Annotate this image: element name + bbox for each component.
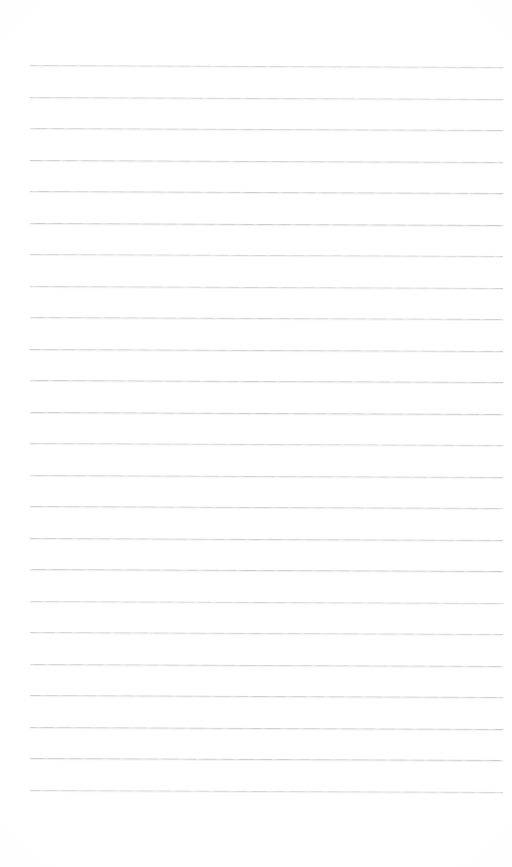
rule-line (30, 412, 503, 415)
rule-line (30, 475, 503, 478)
rule-line-texture (30, 411, 503, 416)
rule-line-texture (30, 64, 503, 69)
rule-line (30, 160, 503, 163)
rule-line-texture (30, 127, 503, 132)
rule-line-texture (30, 316, 503, 321)
rule-line-texture (30, 726, 503, 731)
rule-line (30, 317, 503, 320)
rule-line (30, 286, 503, 289)
rule-line-texture (30, 190, 503, 195)
rule-line (30, 443, 503, 446)
bottom-margin (0, 790, 512, 867)
rule-line-texture (30, 379, 503, 384)
rule-line-texture (30, 757, 503, 762)
rule-line-texture (30, 568, 503, 573)
rule-line-texture (30, 600, 503, 605)
rule-line-texture (30, 222, 503, 227)
rule-line-texture (30, 442, 503, 447)
rule-line (30, 569, 503, 572)
rule-line (30, 727, 503, 730)
rule-line (30, 191, 503, 194)
rule-line (30, 664, 503, 667)
rule-line (30, 538, 503, 541)
rule-line (30, 65, 503, 68)
rule-line (30, 695, 503, 698)
rule-line-texture (30, 285, 503, 290)
rule-line-texture (30, 96, 503, 101)
ruled-writing-area[interactable] (0, 0, 512, 867)
rule-line-texture (30, 253, 503, 258)
rule-line-texture (30, 631, 503, 636)
rule-line (30, 97, 503, 100)
rule-line-texture (30, 159, 503, 164)
rule-line (30, 223, 503, 226)
rule-line (30, 349, 503, 352)
rule-line-texture (30, 348, 503, 353)
rule-line-texture (30, 663, 503, 668)
rule-line (30, 758, 503, 761)
rule-line (30, 380, 503, 383)
rule-line-texture (30, 474, 503, 479)
rule-line (30, 506, 503, 509)
rule-line (30, 128, 503, 131)
paper-page (0, 0, 512, 867)
rule-line-texture (30, 505, 503, 510)
rule-line (30, 632, 503, 635)
rule-line (30, 601, 503, 604)
rule-line-texture (30, 537, 503, 542)
rule-line-texture (30, 694, 503, 699)
rule-line (30, 254, 503, 257)
